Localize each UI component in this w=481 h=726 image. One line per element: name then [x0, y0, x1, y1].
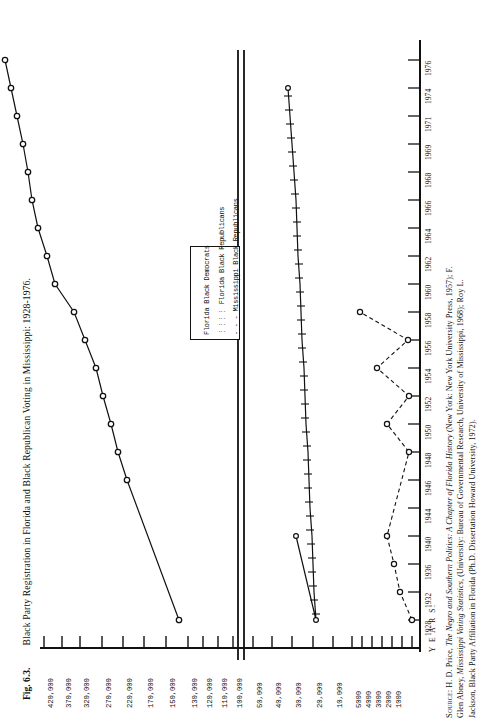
source-line-1: Source: H. D. Price, The Negro and South…: [444, 266, 454, 718]
year-tick-label: 1964: [424, 229, 433, 244]
year-tick-label: 1948: [424, 453, 433, 468]
legend-item-ms-rep: - - - Mississippi Black Republicans: [232, 198, 240, 335]
value-tick-label: 10,000: [336, 683, 344, 708]
value-tick-label: 30,000: [295, 683, 303, 708]
year-tick-label: 1974: [424, 89, 433, 104]
legend-item-fl-dem: Florida Black Democrats: [203, 245, 211, 335]
value-tick-label: 100,000: [236, 678, 244, 708]
legend-item-fl-rep: ⋮⋮⋮⋮ Florida Black Republicans: [218, 207, 226, 335]
series-mississippi-black-republicans: [357, 309, 414, 622]
value-tick-label: 270,000: [105, 678, 113, 708]
value-axis: [40, 636, 420, 648]
source-text-3: Jackson, Black Party Affiliation in Flor…: [468, 419, 477, 718]
year-tick-label: 1958: [424, 313, 433, 328]
year-tick-label: 1954: [424, 369, 433, 384]
legend-label-fl-rep: Florida Black Republicans: [218, 207, 226, 305]
value-tick-label: 50,000: [256, 683, 264, 708]
year-tick-label: 1952: [424, 397, 433, 412]
axis-break: [238, 50, 244, 660]
year-tick-label: 1944: [424, 509, 433, 524]
source-text-1: H. D. Price, The Negro and Southern Poli…: [445, 266, 454, 687]
series-florida-black-democrats: [2, 57, 181, 622]
year-tick-label: 1940: [424, 537, 433, 552]
value-tick-label: 320,000: [83, 678, 91, 708]
value-tick-label: 170,000: [147, 678, 155, 708]
chart-legend: Florida Black Democrats ⋮⋮⋮⋮ Florida Bla…: [190, 246, 240, 340]
year-tick-label: 1976: [424, 61, 433, 76]
value-tick-label: 150,000: [169, 678, 177, 708]
value-tick-label: 370,000: [65, 678, 73, 708]
value-tick-label: 3000: [375, 691, 383, 708]
year-tick-label: 1950: [424, 425, 433, 440]
chart-svg: [0, 0, 481, 726]
legend-swatch-fl-rep: ⋮⋮⋮⋮: [218, 308, 226, 335]
legend-swatch-ms-rep: - - -: [232, 315, 240, 335]
value-tick-label: 110,000: [221, 678, 229, 708]
year-tick-label: 1960: [424, 285, 433, 300]
year-tick-label: 1969: [424, 145, 433, 160]
source-label: Source:: [444, 690, 454, 718]
series-florida-black-republicans: [284, 86, 320, 623]
value-tick-label: 2000: [385, 691, 393, 708]
legend-label-ms-rep: Mississippi Black Republicans: [232, 198, 240, 311]
value-tick-label: 120,000: [206, 678, 214, 708]
value-tick-label: 40,000: [275, 683, 283, 708]
source-line-2: Glen Abney, Mississippi Voting Statistic…: [456, 279, 465, 718]
year-tick-label: 1936: [424, 565, 433, 580]
year-tick-label: 1971: [424, 117, 433, 132]
value-tick-label: 420,000: [47, 678, 55, 708]
legend-label-fl-dem: Florida Black Democrats: [203, 245, 211, 335]
source-line-3: Jackson, Black Party Affiliation in Flor…: [468, 419, 477, 718]
chart-plot-area: [0, 0, 481, 726]
source-text-2: Glen Abney, Mississippi Voting Statistic…: [456, 279, 465, 718]
value-tick-label: 1000: [395, 691, 403, 708]
year-tick-label: 1968: [424, 173, 433, 188]
year-axis: [408, 40, 420, 652]
year-tick-label: 1962: [424, 257, 433, 272]
value-tick-label: 4000: [365, 691, 373, 708]
value-tick-label: 20,000: [316, 683, 324, 708]
value-tick-label: 220,000: [126, 678, 134, 708]
year-tick-label: 1956: [424, 341, 433, 356]
year-tick-label: 1946: [424, 481, 433, 496]
year-axis-title: Y E A R S:: [428, 603, 437, 652]
value-tick-label: 130,000: [191, 678, 199, 708]
value-tick-label: 5000: [355, 691, 363, 708]
year-tick-label: 1966: [424, 201, 433, 216]
